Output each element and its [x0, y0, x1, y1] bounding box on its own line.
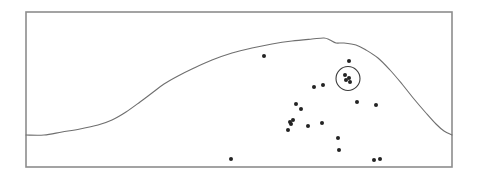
data-point — [378, 157, 382, 161]
data-point — [286, 128, 290, 132]
data-point — [343, 73, 347, 77]
data-point — [291, 118, 295, 122]
data-point — [312, 85, 316, 89]
data-point — [355, 100, 359, 104]
data-point — [337, 148, 341, 152]
data-point — [336, 136, 340, 140]
data-point — [229, 157, 233, 161]
data-point — [374, 103, 378, 107]
scatter-profile-chart — [0, 0, 482, 183]
data-point — [320, 121, 324, 125]
data-point — [321, 83, 325, 87]
data-point — [348, 80, 352, 84]
data-point — [262, 54, 266, 58]
data-point — [306, 124, 310, 128]
terrain-profile-curve — [26, 38, 452, 135]
data-point — [347, 59, 351, 63]
data-point — [289, 122, 293, 126]
data-point-group — [229, 54, 382, 162]
figure-container — [0, 0, 482, 183]
data-point — [372, 158, 376, 162]
data-point — [294, 102, 298, 106]
data-point — [344, 78, 348, 82]
data-point — [299, 107, 303, 111]
chart-frame — [26, 12, 452, 167]
